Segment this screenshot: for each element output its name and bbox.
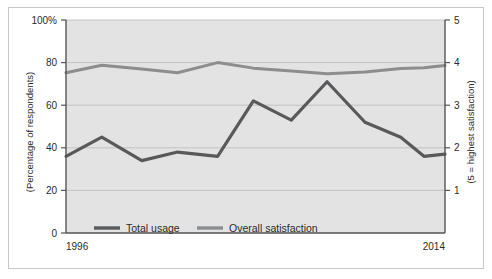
y-tick-label-left: 40: [46, 142, 58, 153]
x-tick-label: 2014: [423, 241, 446, 252]
x-tick-label: 1996: [66, 241, 89, 252]
y-tick-label-right: 3: [454, 100, 460, 111]
plot-area-background: [66, 20, 445, 233]
y-tick-label-right: 4: [454, 57, 460, 68]
y-tick-label-right: 1: [454, 185, 460, 196]
y-tick-label-left: 0: [51, 228, 57, 239]
y-tick-label-left: 20: [46, 185, 58, 196]
y-tick-label-right: 5: [454, 15, 460, 26]
y-tick-label-right: 2: [454, 142, 460, 153]
plot-background: [66, 20, 445, 233]
plot-wrapper: 020406080100%1234519962014 Total usageOv…: [0, 0, 492, 279]
line-chart: 020406080100%1234519962014 Total usageOv…: [0, 0, 492, 279]
y-axis-title-left: (Percentage of respondents): [24, 72, 35, 192]
y-axis-title-right: (5 = highest satisfaction): [465, 80, 476, 183]
y-tick-label-left: 80: [46, 57, 58, 68]
legend-label-total-usage: Total usage: [126, 222, 180, 234]
legend-label-overall-satisfaction: Overall satisfaction: [229, 222, 318, 234]
y-tick-label-left: 100%: [31, 15, 57, 26]
y-tick-label-left: 60: [46, 100, 58, 111]
figure-root: 020406080100%1234519962014 Total usageOv…: [0, 0, 492, 279]
